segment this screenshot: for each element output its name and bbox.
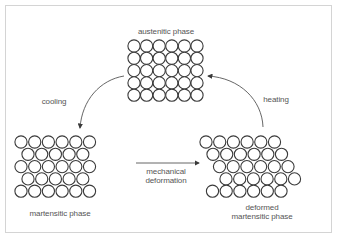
atom [220, 173, 232, 185]
atom [153, 40, 165, 52]
atom [36, 148, 48, 160]
atom [166, 89, 178, 101]
atom [261, 173, 273, 185]
atom [213, 161, 225, 173]
atom [42, 136, 54, 148]
atom [247, 173, 259, 185]
atom [178, 40, 190, 52]
atom [191, 89, 203, 101]
atom [77, 173, 89, 185]
cooling-arrow [80, 76, 124, 128]
atom [42, 185, 54, 197]
atom [191, 52, 203, 64]
atom [153, 65, 165, 77]
atom [227, 161, 239, 173]
atom [261, 185, 273, 197]
atom [141, 65, 153, 77]
atom [178, 65, 190, 77]
atom [141, 52, 153, 64]
atom [262, 148, 274, 160]
atom [234, 148, 246, 160]
atom [49, 148, 61, 160]
atom [153, 77, 165, 89]
atom [153, 52, 165, 64]
atom [221, 148, 233, 160]
atom [275, 148, 287, 160]
cooling-label: cooling [36, 97, 72, 106]
atom [56, 136, 68, 148]
atom [83, 136, 95, 148]
atom [141, 89, 153, 101]
atom [214, 136, 226, 148]
atom [29, 161, 41, 173]
atom [268, 136, 280, 148]
atom [288, 173, 300, 185]
atom [275, 173, 287, 185]
atom [234, 173, 246, 185]
atom [141, 40, 153, 52]
atom [255, 161, 267, 173]
atom [178, 77, 190, 89]
atom [128, 40, 140, 52]
atom [207, 148, 219, 160]
atom [63, 148, 75, 160]
atom [255, 136, 267, 148]
atom [191, 65, 203, 77]
atom [166, 52, 178, 64]
atom [248, 148, 260, 160]
atom [220, 185, 232, 197]
atom [70, 161, 82, 173]
atom [166, 40, 178, 52]
atom [227, 136, 239, 148]
austenitic-lattice [128, 40, 203, 101]
atom [128, 65, 140, 77]
atom [15, 136, 27, 148]
deformed-label-line2: martensitic phase [222, 212, 302, 221]
atom [77, 148, 89, 160]
atom [29, 185, 41, 197]
atom [282, 161, 294, 173]
atom [241, 136, 253, 148]
atom [206, 185, 218, 197]
atom [70, 185, 82, 197]
heating-arrow [208, 76, 263, 127]
atom [128, 52, 140, 64]
deformation-label-line1: mechanical [136, 167, 196, 176]
atom [166, 65, 178, 77]
atom [36, 173, 48, 185]
deformed-lattice [200, 136, 301, 197]
atom [178, 89, 190, 101]
atom [153, 89, 165, 101]
atom [268, 161, 280, 173]
atom [191, 77, 203, 89]
atom [191, 40, 203, 52]
atom [241, 161, 253, 173]
atom [83, 185, 95, 197]
martensitic-phase-label: martensitic phase [20, 209, 100, 218]
atom [128, 77, 140, 89]
atom [56, 185, 68, 197]
austenitic-phase-label: austenitic phase [126, 27, 206, 36]
atom [22, 148, 34, 160]
deformed-label-line1: deformed [222, 203, 302, 212]
atom [42, 161, 54, 173]
atom [141, 77, 153, 89]
atom [83, 161, 95, 173]
atom [178, 52, 190, 64]
atom [128, 89, 140, 101]
heating-label: heating [258, 95, 294, 104]
atom [15, 185, 27, 197]
atom [49, 173, 61, 185]
atom [200, 136, 212, 148]
atom [22, 173, 34, 185]
martensitic-lattice [15, 136, 96, 197]
atom [234, 185, 246, 197]
atom [275, 185, 287, 197]
atom [56, 161, 68, 173]
atom [248, 185, 260, 197]
atom [70, 136, 82, 148]
atom [29, 136, 41, 148]
atom [166, 77, 178, 89]
atom [63, 173, 75, 185]
atom [15, 161, 27, 173]
